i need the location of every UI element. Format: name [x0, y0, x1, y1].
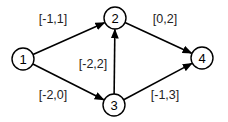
- edge-1-to-2: [33, 23, 104, 55]
- edge-3-to-2: [114, 29, 115, 94]
- edge-label-1-3: [-2,0]: [39, 88, 68, 102]
- edge-label-1-2: [-1,1]: [39, 12, 68, 26]
- edge-2-to-4: [125, 23, 192, 54]
- node-label: 4: [198, 51, 205, 66]
- node-label: 2: [111, 11, 118, 26]
- node-label: 3: [110, 98, 117, 113]
- node-1: 1: [12, 48, 34, 70]
- node-3: 3: [103, 94, 125, 116]
- node-label: 1: [19, 52, 26, 67]
- node-4: 4: [191, 47, 213, 69]
- edge-label-3-2: [-2,2]: [79, 57, 108, 71]
- graph-canvas: 1234 [-1,1][-2,0][-2,2][0,2][-1,3]: [0, 0, 228, 122]
- edge-label-3-4: [-1,3]: [151, 88, 180, 102]
- edge-label-2-4: [0,2]: [153, 12, 177, 26]
- node-2: 2: [104, 7, 126, 29]
